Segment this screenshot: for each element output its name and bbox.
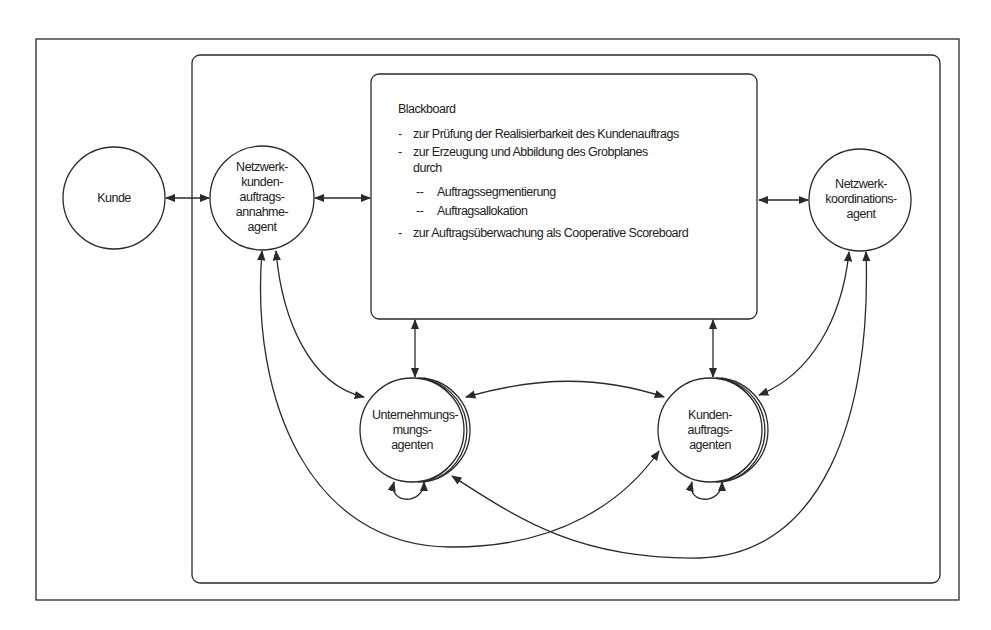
- label-line: kunden-: [222, 175, 302, 190]
- label-line: koordinations-: [815, 192, 907, 207]
- label-line: Netzwerk-: [222, 160, 302, 175]
- label-line: Netzwerk-: [815, 177, 907, 192]
- arrow-unternehmung-kundenauftrag: [466, 381, 664, 397]
- kundenauftrags-agenten-label: Kunden- auftrags- agenten: [670, 408, 750, 453]
- label-line: agenten: [670, 438, 750, 453]
- label-line: mungs-: [372, 423, 452, 438]
- kunde-label: Kunde: [74, 191, 154, 206]
- self-loop-kundenauftrag: [691, 482, 722, 499]
- label-line: agent: [222, 220, 302, 235]
- blackboard-item: --Auftragsallokation: [416, 203, 527, 219]
- blackboard-item: --Auftragssegmentierung: [416, 184, 556, 200]
- label-line: annahme-: [222, 205, 302, 220]
- self-loop-unternehmung: [393, 482, 424, 499]
- blackboard-title: Blackboard: [398, 102, 456, 116]
- label-line: Unternehmungs-: [372, 408, 452, 423]
- unternehmungs-agenten-label: Unternehmungs- mungs- agenten: [372, 408, 452, 453]
- blackboard-item: -zur Auftragsüberwachung als Cooperative…: [398, 225, 688, 241]
- annahme-agent-label: Netzwerk- kunden- auftrags- annahme- age…: [222, 160, 302, 235]
- koordinations-agent-label: Netzwerk- koordinations- agent: [815, 177, 907, 222]
- blackboard-item: durch: [413, 160, 442, 176]
- blackboard: Blackboard -zur Prüfung der Realisierbar…: [371, 74, 757, 318]
- blackboard-item: -zur Prüfung der Realisierbarkeit des Ku…: [398, 126, 679, 142]
- label-line: auftrags-: [670, 423, 750, 438]
- label-line: agenten: [372, 438, 452, 453]
- label-line: auftrags-: [222, 190, 302, 205]
- arrow-koordination-kundenauftrag: [759, 252, 849, 395]
- label-line: Kunden-: [670, 408, 750, 423]
- blackboard-item: -zur Erzeugung und Abbildung des Grobpla…: [398, 144, 648, 160]
- label-line: agent: [815, 207, 907, 222]
- arrow-annahme-unternehmung: [276, 251, 364, 397]
